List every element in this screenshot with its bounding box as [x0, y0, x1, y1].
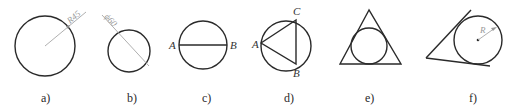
point-b-label: B — [293, 67, 300, 79]
tangent-line-lower — [426, 58, 490, 66]
caption-c: c) — [202, 91, 211, 105]
geometry-figures: R45 a) ϕ60 b) A B c) C A B d) e) — [0, 0, 514, 111]
tangent-line-upper — [426, 10, 471, 58]
caption-a: a) — [41, 91, 50, 105]
caption-b: b) — [127, 91, 137, 105]
figure-e: e) — [340, 10, 401, 105]
point-c-label: C — [293, 5, 301, 17]
point-b-label: B — [230, 39, 237, 51]
incircle — [351, 28, 387, 64]
caption-f: f) — [469, 91, 477, 105]
circle-b — [108, 30, 150, 72]
circle-d — [261, 21, 311, 71]
caption-d: d) — [284, 91, 294, 105]
radius-label: R45 — [64, 8, 83, 26]
figure-f: R f) — [426, 10, 502, 105]
point-a-label: A — [251, 38, 259, 50]
point-a-label: A — [168, 39, 176, 51]
outer-triangle — [340, 10, 401, 64]
figure-a: R45 a) — [15, 8, 86, 105]
figure-d: C A B d) — [251, 5, 311, 105]
caption-e: e) — [365, 91, 374, 105]
diameter-label: ϕ60 — [103, 12, 120, 29]
inscribed-triangle — [261, 20, 296, 64]
radius-label: R — [479, 25, 486, 35]
figure-b: ϕ60 b) — [102, 12, 150, 105]
figure-c: A B c) — [168, 21, 237, 105]
